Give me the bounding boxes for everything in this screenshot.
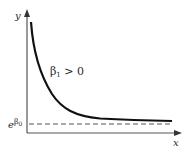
x-axis-label: x bbox=[173, 137, 179, 148]
asymptote-label-sub: 0 bbox=[19, 120, 23, 127]
curve-label: β1 > 0 bbox=[50, 65, 84, 79]
y-axis bbox=[24, 9, 30, 133]
x-axis-arrow-icon bbox=[174, 130, 182, 136]
y-axis-label: y bbox=[14, 10, 21, 21]
y-axis-arrow-icon bbox=[24, 9, 30, 17]
asymptote-label: eβ0 bbox=[8, 117, 23, 130]
x-axis bbox=[27, 130, 182, 136]
chart-canvas: y x β1 > 0 eβ0 bbox=[0, 0, 188, 152]
curve-label-relation: > 0 bbox=[61, 65, 84, 78]
